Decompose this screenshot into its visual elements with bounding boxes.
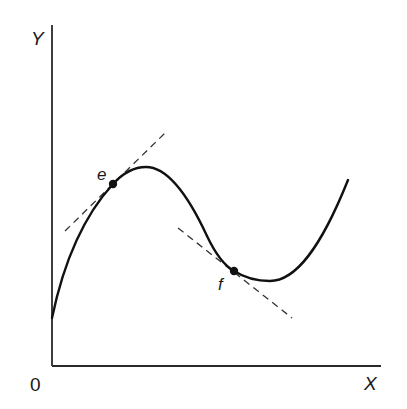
point-e-marker bbox=[109, 180, 117, 188]
diagram-canvas: Y X 0 e f bbox=[0, 0, 407, 409]
point-f-marker bbox=[230, 267, 238, 275]
origin-label: 0 bbox=[30, 374, 41, 395]
y-axis-label: Y bbox=[31, 28, 45, 49]
function-curve bbox=[52, 167, 348, 318]
x-axis-label: X bbox=[363, 373, 378, 394]
point-f-label: f bbox=[218, 275, 225, 294]
point-e-label: e bbox=[97, 165, 106, 184]
